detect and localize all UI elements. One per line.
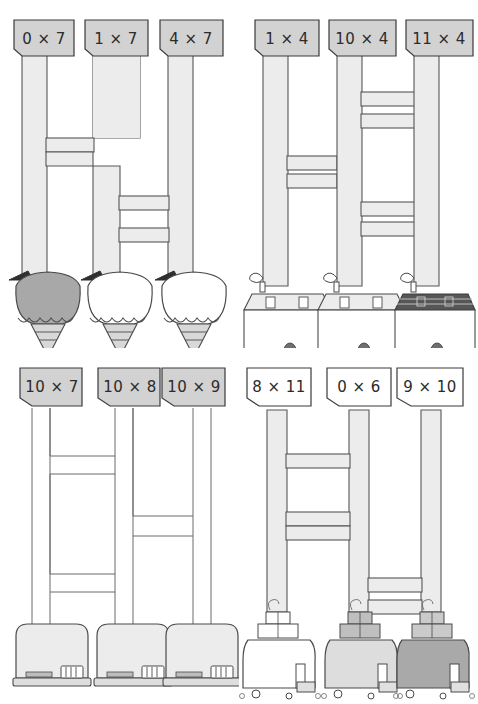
label-text: 9 × 10 — [403, 378, 457, 396]
pipe-segment — [133, 408, 193, 536]
truck-wheel — [470, 694, 475, 699]
label-text: 10 × 7 — [25, 378, 79, 396]
pipe-segment — [32, 408, 50, 626]
pipe-segment — [50, 408, 115, 474]
pipe-segment — [193, 408, 211, 626]
pipe-network-top-left — [22, 48, 193, 276]
label-text: 0 × 7 — [22, 30, 66, 48]
cone — [31, 324, 65, 348]
truck-wheel — [334, 690, 342, 698]
house-window — [340, 297, 349, 308]
quadrant-bottom-right-svg: 8 × 11 0 × 6 9 × 10 — [239, 364, 478, 704]
label-card-1[interactable]: 1 × 7 — [85, 20, 148, 56]
toaster-lever-panel — [61, 666, 83, 678]
toaster-handle — [26, 672, 52, 677]
quadrant-bottom-right: 8 × 11 0 × 6 9 × 10 — [239, 364, 478, 704]
pipe-crossbar — [286, 512, 350, 526]
toaster-handle — [107, 672, 133, 677]
label-text: 10 × 4 — [335, 30, 389, 48]
toaster-lever-panel — [211, 666, 233, 678]
ice-cream-scoop — [88, 272, 152, 324]
label-card-2[interactable]: 10 × 9 — [162, 368, 225, 406]
house-roof — [395, 294, 475, 310]
label-card-1[interactable]: 10 × 4 — [329, 20, 396, 56]
pipe-crossbar — [46, 138, 94, 152]
toaster-lever-panel — [142, 666, 164, 678]
pipe-crossbar — [361, 202, 415, 216]
pipe-crossbar — [361, 92, 415, 106]
pipe-crossbar — [119, 196, 169, 210]
label-text: 4 × 7 — [169, 30, 213, 48]
truck-wheel — [368, 693, 374, 699]
truck-bumper — [297, 682, 315, 692]
label-card-2[interactable]: 9 × 10 — [397, 368, 463, 406]
object-ice-cream-cone-0 — [9, 271, 80, 348]
house-roof — [318, 294, 405, 310]
pipe-segment — [22, 48, 47, 276]
house-roof — [244, 294, 331, 310]
smoke-puff-icon — [324, 273, 337, 282]
pipe-crossbar — [361, 114, 415, 128]
quadrant-top-right: 1 × 4 10 × 4 11 × 4 — [239, 18, 478, 348]
label-card-0[interactable]: 0 × 7 — [14, 20, 74, 56]
pipe-segment — [46, 152, 120, 276]
truck-wheel — [440, 693, 446, 699]
truck-wheel — [286, 693, 292, 699]
pipe-crossbar — [368, 578, 422, 592]
pipe-network-bottom-right — [267, 410, 441, 614]
label-card-1[interactable]: 10 × 8 — [98, 368, 160, 406]
house-window — [299, 297, 308, 308]
label-text: 11 × 4 — [412, 30, 466, 48]
label-card-2[interactable]: 11 × 4 — [406, 20, 473, 56]
object-ice-cream-cone-2 — [155, 271, 226, 348]
label-card-2[interactable]: 4 × 7 — [160, 20, 223, 56]
pipe-segment — [263, 48, 288, 286]
pipe-segment — [115, 408, 133, 626]
pipe-segment — [168, 48, 193, 276]
pipe-crossbar — [361, 222, 415, 236]
smoke-puff-icon — [401, 273, 414, 282]
pipe-crossbar — [286, 454, 350, 468]
label-card-1[interactable]: 0 × 6 — [327, 368, 391, 406]
pipe-network-bottom-left — [32, 408, 211, 626]
object-toaster-0 — [13, 624, 91, 686]
truck-wheel — [316, 694, 321, 699]
label-card-0[interactable]: 1 × 4 — [255, 20, 319, 56]
pipe-crossbar — [287, 156, 337, 170]
pipe-network-top-right — [263, 48, 439, 286]
object-toaster-2 — [163, 624, 239, 686]
truck-wheel — [406, 690, 414, 698]
truck-bumper — [451, 682, 469, 692]
pipe-crossbar — [287, 174, 337, 188]
label-text: 8 × 11 — [252, 378, 306, 396]
truck-wheel — [252, 690, 260, 698]
label-card-0[interactable]: 10 × 7 — [20, 368, 82, 406]
cone — [103, 324, 137, 348]
truck-wheel — [240, 694, 245, 699]
pipe-segment — [349, 410, 369, 612]
truck-bumper — [379, 682, 397, 692]
object-gift-truck-0 — [240, 600, 321, 700]
house-window — [266, 297, 275, 308]
house-body — [318, 310, 405, 348]
label-text: 1 × 7 — [94, 30, 138, 48]
house-body — [395, 310, 475, 348]
label-text: 1 × 4 — [265, 30, 309, 48]
toaster-base — [94, 678, 172, 686]
ice-cream-scoop — [162, 272, 226, 324]
ice-cream-scoop — [16, 272, 80, 324]
label-text: 10 × 9 — [167, 378, 221, 396]
quadrant-top-left: 0 × 7 1 × 7 4 × 7 — [0, 18, 239, 348]
pipe-crossbar — [119, 228, 169, 242]
quadrant-top-right-svg: 1 × 4 10 × 4 11 × 4 — [239, 18, 478, 348]
label-card-0[interactable]: 8 × 11 — [247, 368, 311, 406]
pipe-segment — [414, 48, 439, 286]
chimney — [260, 282, 265, 292]
chimney — [411, 282, 416, 292]
pipe-segment — [50, 474, 115, 592]
smoke-puff-icon — [250, 273, 263, 282]
quadrant-top-left-svg: 0 × 7 1 × 7 4 × 7 — [0, 18, 239, 348]
pipe-crossbar — [286, 526, 350, 540]
worksheet-canvas: 0 × 7 1 × 7 4 × 7 — [0, 0, 478, 704]
label-text: 10 × 8 — [103, 378, 157, 396]
